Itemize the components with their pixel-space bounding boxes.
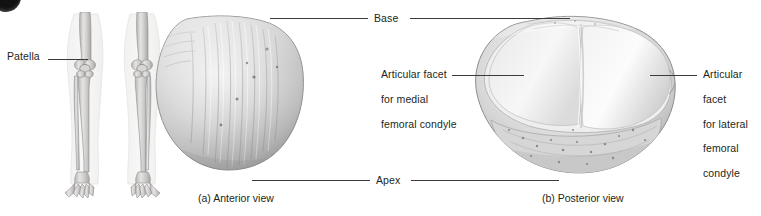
base-label: Base — [374, 12, 398, 24]
patella-posterior-view-illustration — [463, 14, 685, 178]
apex-leader-line-left — [252, 180, 370, 181]
lateral-facet-line-5: condyle — [703, 167, 748, 179]
medial-facet-line-3: femoral condyle — [381, 118, 457, 130]
apex-leader-line-right — [411, 180, 559, 181]
patella-anatomy-figure: Patella — [0, 0, 761, 216]
medial-facet-line-2: for medial — [381, 93, 457, 105]
lateral-facet-label: Articular facet for lateral femoral cond… — [703, 68, 748, 180]
lateral-facet-leader-line — [650, 75, 697, 76]
patella-anterior-view-illustration — [151, 13, 309, 176]
lateral-facet-line-1: Articular — [703, 68, 748, 80]
lateral-facet-line-2: facet — [703, 93, 748, 105]
caption-anterior-view: (a) Anterior view — [198, 192, 274, 204]
medial-facet-label: Articular facet for medial femoral condy… — [381, 68, 457, 130]
medial-facet-line-1: Articular facet — [381, 68, 457, 80]
apex-label: Apex — [376, 174, 400, 186]
medial-facet-leader-line — [452, 75, 524, 76]
base-leader-line-left — [270, 18, 368, 19]
caption-posterior-view: (b) Posterior view — [542, 192, 624, 204]
base-leader-line-right — [410, 18, 570, 19]
figure-number-badge-icon — [0, 0, 21, 12]
lateral-facet-line-4: femoral — [703, 142, 748, 154]
lateral-facet-line-3: for lateral — [703, 118, 748, 130]
patella-leader-line — [48, 59, 88, 60]
patella-label: Patella — [7, 50, 40, 62]
